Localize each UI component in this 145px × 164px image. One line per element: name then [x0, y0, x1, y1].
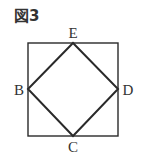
label-b: B [14, 82, 24, 98]
outer-square [28, 43, 118, 136]
label-e: E [68, 25, 77, 41]
label-d: D [123, 82, 134, 98]
label-c: C [68, 139, 78, 155]
geometry-diagram: E B D C [0, 0, 145, 164]
inner-square-bedc [28, 43, 118, 136]
